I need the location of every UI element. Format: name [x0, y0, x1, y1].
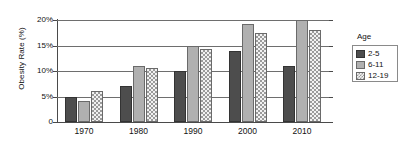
bar-group — [229, 20, 271, 122]
y-tick-mark-right — [329, 122, 333, 123]
y-tick-label: 0 — [49, 118, 53, 126]
legend-label: 2-5 — [368, 50, 380, 58]
y-tick-mark-right — [329, 71, 333, 72]
y-tick-label: 20% — [37, 16, 53, 24]
legend-swatch-icon — [356, 61, 365, 69]
x-tick-label: 1980 — [109, 126, 169, 136]
bar-group — [174, 20, 216, 122]
x-tick-label: 2000 — [218, 126, 278, 136]
bar-group — [120, 20, 162, 122]
legend-swatch-icon — [356, 72, 365, 80]
y-tick-mark — [53, 46, 57, 47]
y-tick-mark — [53, 71, 57, 72]
legend: 2-56-1112-19 — [352, 45, 398, 82]
bar-2-5-1970 — [65, 97, 77, 123]
x-tick-label: 1970 — [54, 126, 114, 136]
bar-6-11-2010 — [296, 20, 308, 122]
bar-group — [65, 20, 107, 122]
legend-swatch-icon — [356, 50, 365, 58]
legend-item-6-11[interactable]: 6-11 — [356, 60, 394, 70]
bar-12-19-2010 — [309, 30, 321, 122]
bar-6-11-1990 — [187, 46, 199, 123]
bar-12-19-2000 — [255, 33, 267, 122]
y-tick-label: 10% — [37, 67, 53, 75]
bar-6-11-1980 — [133, 66, 145, 122]
y-tick-mark-right — [329, 46, 333, 47]
legend-item-12-19[interactable]: 12-19 — [356, 71, 394, 81]
bar-2-5-2000 — [229, 51, 241, 122]
bar-6-11-1970 — [78, 101, 90, 122]
bar-2-5-1980 — [120, 86, 132, 122]
legend-title: Age — [357, 32, 371, 41]
bar-chart: Obesity Rate (%) Age 2-56-1112-19 05%10%… — [0, 0, 402, 150]
legend-label: 6-11 — [368, 61, 383, 69]
y-tick-mark — [53, 122, 57, 123]
x-tick-label: 2010 — [272, 126, 332, 136]
legend-item-2-5[interactable]: 2-5 — [356, 49, 394, 59]
bar-group — [283, 20, 325, 122]
x-tick-label: 1990 — [163, 126, 223, 136]
y-tick-label: 15% — [37, 42, 53, 50]
bar-2-5-2010 — [283, 66, 295, 122]
bar-6-11-2000 — [242, 24, 254, 122]
bar-12-19-1980 — [146, 68, 158, 122]
legend-label: 12-19 — [368, 72, 388, 80]
y-tick-mark — [53, 20, 57, 21]
y-tick-mark-right — [329, 20, 333, 21]
y-tick-mark — [53, 97, 57, 98]
x-axis-line — [57, 122, 333, 123]
bar-12-19-1990 — [200, 49, 212, 122]
y-tick-label: 5% — [41, 93, 53, 101]
y-tick-mark-right — [329, 97, 333, 98]
bar-2-5-1990 — [174, 71, 186, 122]
y-axis-title: Obesity Rate (%) — [17, 6, 26, 111]
plot-area — [57, 20, 329, 122]
bar-12-19-1970 — [91, 91, 103, 122]
